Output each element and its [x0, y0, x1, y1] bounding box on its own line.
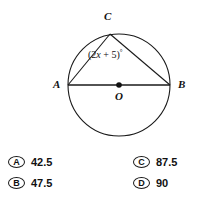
answer-option-c[interactable]: C 87.5 [133, 154, 177, 170]
option-letter-badge-d: D [133, 177, 150, 189]
answer-options: A 42.5 B 47.5 C 87.5 D 90 [0, 152, 202, 204]
option-letter-badge-c: C [133, 156, 150, 168]
angle-middle: + 5) [101, 49, 120, 60]
option-letter-c: C [133, 156, 150, 169]
angle-expression-label: (2x + 5)° [88, 46, 123, 61]
answer-option-a[interactable]: A 42.5 [8, 154, 52, 170]
option-letter-b: B [8, 177, 25, 190]
option-value-b: 47.5 [31, 177, 52, 190]
answer-option-d[interactable]: D 90 [133, 175, 168, 191]
option-letter-a: A [8, 156, 25, 169]
answer-option-b[interactable]: B 47.5 [8, 175, 52, 191]
option-letter-badge-b: B [8, 177, 25, 189]
center-point-dot [116, 82, 122, 88]
point-label-a: A [53, 79, 60, 90]
point-label-o: O [115, 91, 123, 102]
circle-diagram-svg [0, 0, 202, 150]
option-value-a: 42.5 [31, 156, 52, 169]
option-value-d: 90 [156, 177, 168, 190]
point-label-c: C [104, 11, 111, 22]
degree-icon: ° [120, 48, 123, 56]
option-value-c: 87.5 [156, 156, 177, 169]
geometry-figure: C A B O (2x + 5)° [0, 0, 202, 150]
option-letter-badge-a: A [8, 156, 25, 168]
option-letter-d: D [133, 177, 150, 190]
point-label-b: B [178, 79, 185, 90]
